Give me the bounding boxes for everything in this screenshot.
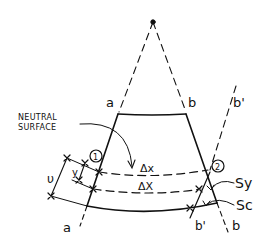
neutral-surface-label-line2: SURFACE bbox=[18, 123, 56, 132]
label-delta-s-y: Sy bbox=[235, 175, 252, 191]
section-b-extension bbox=[217, 203, 228, 232]
label-delta-s-c: Sc bbox=[236, 197, 253, 213]
bottom-arc bbox=[87, 203, 217, 211]
label-y: y bbox=[72, 167, 78, 178]
label-v: υ bbox=[47, 172, 54, 186]
neutral-surface-label-line1: NEUTRAL bbox=[18, 113, 57, 122]
label-point-2: 2 bbox=[215, 163, 220, 172]
top-arc bbox=[118, 114, 186, 115]
dimension-ticks bbox=[48, 155, 202, 211]
label-delta-x-lower: ΔX bbox=[138, 180, 154, 193]
label-b-prime-top: b' bbox=[233, 95, 245, 110]
label-a-top: a bbox=[106, 95, 114, 110]
label-b-prime-bottom: b' bbox=[195, 219, 206, 233]
label-b-bottom: b bbox=[232, 218, 240, 233]
label-a-bottom: a bbox=[63, 220, 71, 235]
label-b-top: b bbox=[188, 95, 196, 110]
label-point-1: 1 bbox=[93, 153, 98, 162]
label-delta-x-upper: Δx bbox=[140, 162, 155, 175]
section-b-line bbox=[186, 114, 217, 203]
radial-line-b-dashed bbox=[153, 22, 186, 112]
v-extension-bottom bbox=[51, 196, 87, 206]
section-a-extension bbox=[80, 206, 87, 226]
bending-element-diagram: a b b' a b b' NEUTRAL SURFACE 1 2 Δx ΔX … bbox=[0, 0, 275, 250]
sy-leader bbox=[212, 181, 234, 188]
radial-line-a-dashed bbox=[119, 22, 153, 112]
y-extension bbox=[72, 180, 93, 189]
